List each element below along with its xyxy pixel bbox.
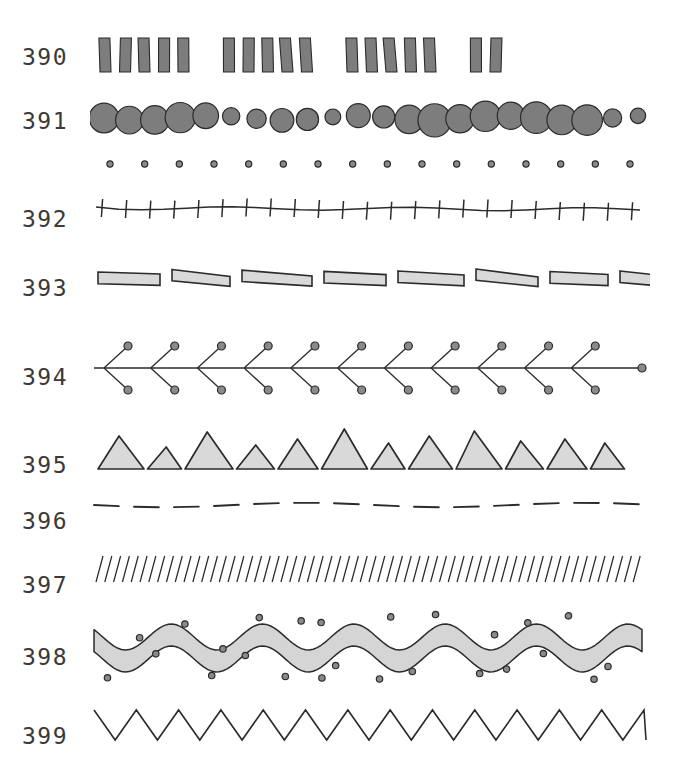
pattern-row-label: 394 [22, 364, 94, 390]
pattern-figure-chevron-branch-with-terminal-dots [90, 336, 650, 400]
pattern-figure-wavy-ribbon-with-scattered-dots [90, 608, 650, 688]
pattern-svg [90, 262, 650, 296]
pattern-row-label: 395 [22, 452, 94, 478]
pattern-row-label: 392 [22, 206, 94, 232]
pattern-svg [90, 700, 650, 748]
pattern-plate: 390391392393394395396397398399 [0, 0, 677, 779]
pattern-svg [90, 608, 650, 688]
pattern-row-label: 393 [22, 275, 94, 301]
pattern-figure-grouped-vertical-bars [90, 34, 650, 80]
pattern-svg [90, 34, 650, 80]
pattern-svg [90, 96, 650, 178]
pattern-svg [90, 494, 650, 516]
pattern-figure-dashed-rule [90, 494, 650, 516]
pattern-svg [90, 192, 650, 222]
pattern-row-label: 398 [22, 644, 94, 670]
pattern-figure-horizontal-block-row [90, 262, 650, 296]
pattern-row-label: 390 [22, 44, 94, 70]
pattern-row-label: 399 [22, 723, 94, 749]
pattern-row-label: 391 [22, 108, 94, 134]
pattern-row-label: 397 [22, 572, 94, 598]
pattern-figure-tick-marked-rule [90, 192, 650, 222]
pattern-svg [90, 424, 650, 476]
pattern-figure-diagonal-hatching [90, 552, 650, 586]
pattern-svg [90, 552, 650, 586]
pattern-figure-triangle-row [90, 424, 650, 476]
pattern-figure-zigzag-line [90, 700, 650, 748]
pattern-row-label: 396 [22, 508, 94, 534]
pattern-svg [90, 336, 650, 400]
pattern-figure-overlapping-circle-chain-with-dot-row [90, 96, 650, 178]
